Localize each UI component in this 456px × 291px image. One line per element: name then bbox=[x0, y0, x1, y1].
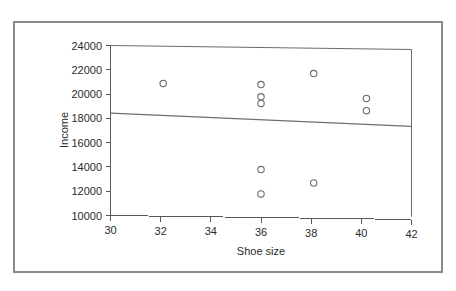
x-tick-label-42: 42 bbox=[405, 228, 417, 240]
data-point bbox=[258, 191, 264, 197]
x-tick-label-30: 30 bbox=[104, 224, 116, 236]
x-axis: 30 32 34 36 38 40 42 Shoe size bbox=[104, 216, 417, 258]
y-tick-label-18000: 18000 bbox=[71, 112, 102, 124]
x-tick-label-36: 36 bbox=[255, 226, 267, 238]
data-point bbox=[363, 95, 369, 101]
data-point bbox=[160, 80, 166, 86]
x-tick-label-32: 32 bbox=[155, 225, 167, 237]
y-tick-label-10000: 10000 bbox=[71, 210, 102, 222]
y-tick-label-16000: 16000 bbox=[71, 137, 102, 149]
y-tick-label-24000: 24000 bbox=[71, 40, 102, 52]
y-tick-label-12000: 12000 bbox=[71, 185, 102, 197]
x-axis-ticks bbox=[111, 216, 412, 226]
data-point bbox=[258, 100, 264, 106]
data-point bbox=[363, 108, 369, 114]
x-tick-label-38: 38 bbox=[305, 227, 317, 239]
y-axis: 10000 12000 14000 16000 18000 20000 2200… bbox=[58, 40, 111, 222]
y-tick-label-14000: 14000 bbox=[71, 161, 102, 173]
data-point bbox=[311, 70, 317, 76]
figure-container: 10000 12000 14000 16000 18000 20000 2200… bbox=[0, 0, 456, 291]
plot-top-edge bbox=[111, 46, 412, 50]
y-axis-title: Income bbox=[58, 112, 70, 148]
data-point bbox=[258, 94, 264, 100]
y-axis-ticks bbox=[106, 46, 111, 216]
data-point bbox=[258, 166, 264, 172]
x-tick-label-34: 34 bbox=[205, 225, 217, 237]
data-points bbox=[160, 70, 370, 197]
x-tick-label-40: 40 bbox=[355, 227, 367, 239]
data-point bbox=[311, 180, 317, 186]
scatter-plot-canvas: 10000 12000 14000 16000 18000 20000 2200… bbox=[0, 0, 456, 291]
y-tick-label-20000: 20000 bbox=[71, 88, 102, 100]
x-axis-title: Shoe size bbox=[237, 245, 285, 257]
regression-line bbox=[111, 113, 412, 126]
y-tick-label-22000: 22000 bbox=[71, 64, 102, 76]
data-point bbox=[258, 81, 264, 87]
